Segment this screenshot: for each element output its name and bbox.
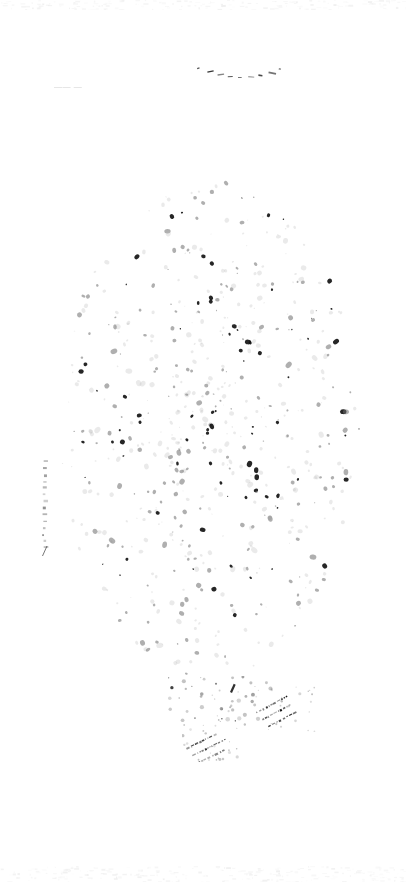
faded-arc-mark bbox=[194, 62, 284, 84]
faded-text-fragment: —— — bbox=[54, 82, 82, 91]
scanned-page: —— — bbox=[0, 0, 406, 882]
diagonal-strokes-left bbox=[182, 722, 246, 762]
diagonal-strokes-right bbox=[252, 686, 318, 732]
bottom-edge-noise bbox=[0, 866, 406, 882]
left-margin-mark bbox=[40, 458, 50, 558]
top-edge-noise bbox=[0, 0, 406, 10]
